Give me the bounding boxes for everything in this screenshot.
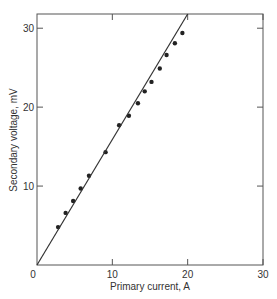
data-point	[164, 53, 168, 57]
x-tick-label: 0	[30, 269, 36, 280]
data-point	[180, 31, 184, 35]
y-tick-label: 30	[23, 23, 35, 34]
data-point	[158, 66, 162, 70]
y-tick-label: 20	[23, 102, 35, 113]
x-tick-label: 30	[257, 269, 269, 280]
data-point	[143, 89, 147, 93]
data-point	[149, 80, 153, 84]
chart: 0102030102030 Primary current, A Seconda…	[0, 0, 277, 299]
plot-frame	[37, 14, 263, 265]
fit-line	[37, 14, 188, 265]
data-point	[173, 41, 177, 45]
data-series	[37, 14, 188, 265]
x-tick-label: 20	[182, 269, 194, 280]
x-axis-label: Primary current, A	[110, 281, 190, 292]
y-tick-label: 10	[23, 181, 35, 192]
axis-ticks	[37, 14, 263, 265]
x-tick-label: 10	[107, 269, 119, 280]
tick-labels: 0102030102030	[23, 23, 269, 280]
data-point	[136, 101, 140, 105]
y-axis-label: Secondary voltage, mV	[8, 88, 19, 192]
